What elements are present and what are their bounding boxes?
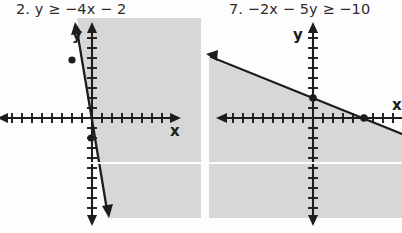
problem-7-title: 7. −2x − 5y ≥ −10 — [201, 1, 402, 17]
y-axis-arrow-down — [87, 215, 97, 226]
problem-7-plot: y x — [201, 18, 402, 233]
y-axis-label: y — [293, 26, 303, 44]
y-axis-arrow-down — [308, 215, 318, 226]
x-axis-label: x — [170, 122, 180, 140]
y-axis-arrow-up — [308, 22, 318, 33]
plot-point-a — [68, 56, 75, 63]
problem-2-plot: y x — [0, 18, 201, 233]
problem-7-graph: y x — [201, 18, 402, 233]
problem-7: 7. −2x − 5y ≥ −10 — [201, 0, 402, 233]
x-axis-label: x — [392, 96, 402, 114]
plot-point-b — [87, 134, 94, 141]
x-axis-arrow-left — [0, 113, 8, 123]
problem-2-title: 2. y ≥ −4x − 2 — [0, 1, 217, 17]
white-scanline-artifact — [0, 162, 402, 164]
worksheet-page: 2. y ≥ −4x − 2 — [0, 0, 402, 233]
plot-point-a — [309, 94, 317, 102]
y-axis-label: y — [72, 26, 82, 44]
plot-point-b — [360, 114, 368, 122]
problem-2-graph: y x — [0, 18, 201, 233]
problem-2: 2. y ≥ −4x − 2 — [0, 0, 201, 233]
shaded-region — [209, 38, 402, 218]
